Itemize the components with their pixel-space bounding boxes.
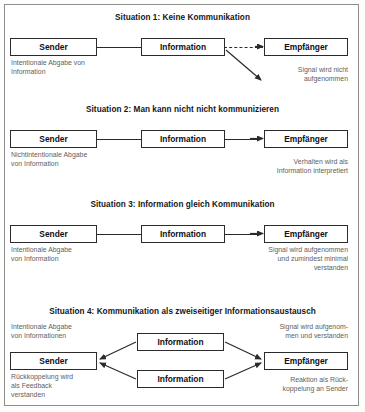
situation-1-caption-right: Signal wird nicht aufgenommen (248, 65, 348, 83)
situation-4-caption-right-top: Signal wird aufgenom- men und verstanden (240, 322, 348, 340)
situation-1-caption-left: Intentionale Abgabe von Information (11, 58, 141, 76)
situation-3-caption-right: Signal wird aufgenommen und zumindest mi… (228, 245, 348, 273)
situation-4-node-information-bottom: Information (137, 370, 224, 388)
situation-4-caption-left-bottom: Rückkoppelung wird als Feedback verstand… (11, 372, 121, 400)
situation-2-caption-left: Nichtintentionale Abgabe von Information (11, 150, 146, 168)
situation-2-connector-information-empfaenger (224, 139, 258, 140)
situation-3-caption-left: Intentionale Abgabe von Information (11, 245, 131, 263)
situation-1-connector-information-empfaenger (224, 47, 263, 48)
situation-1-title: Situation 1: Keine Kommunikation (0, 13, 365, 22)
situation-3-node-information: Information (141, 225, 225, 243)
situation-3-node-empfaenger: Empfänger (264, 225, 348, 243)
situation-1-node-sender: Sender (10, 38, 97, 56)
situation-4-caption-right-bottom: Reaktion als Rück- koppelung an Sender (240, 375, 348, 393)
situation-2-title: Situation 2: Man kann nicht nicht kommun… (0, 105, 365, 114)
situation-1-node-information: Information (141, 38, 225, 56)
situation-3-connector-sender-information (96, 234, 142, 235)
situation-2-node-information: Information (141, 130, 225, 148)
situation-2-caption-right: Verhalten wird als Information interpret… (228, 157, 348, 175)
situation-1-node-empfaenger: Empfänger (264, 38, 348, 56)
situation-4-node-information-top: Information (137, 333, 224, 351)
situation-3-title: Situation 3: Information gleich Kommunik… (0, 200, 365, 209)
situation-3-connector-information-empfaenger (224, 234, 258, 235)
situation-4-node-sender: Sender (10, 352, 97, 370)
situation-2-node-sender: Sender (10, 130, 97, 148)
situation-3-node-sender: Sender (10, 225, 97, 243)
situation-2-connector-sender-information (96, 139, 142, 140)
situation-4-title: Situation 4: Kommunikation als zweiseiti… (0, 307, 365, 316)
situation-2-node-empfaenger: Empfänger (264, 130, 348, 148)
diagram-page: Situation 1: Keine Kommunikation Sender … (0, 0, 365, 412)
situation-1-connector-sender-information (96, 47, 142, 48)
situation-4-caption-left-top: Intentionale Abgabe von Informationen (11, 322, 131, 340)
situation-4-node-empfaenger: Empfänger (264, 352, 348, 370)
